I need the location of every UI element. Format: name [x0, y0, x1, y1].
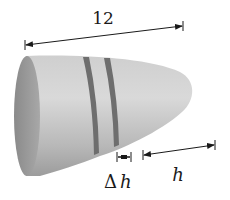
bullet-diagram: 12 Δh h: [0, 0, 230, 200]
label-delta-h: Δh: [104, 171, 132, 192]
dimension-total-length: 12: [25, 8, 183, 50]
delta-h-variable: h: [120, 171, 132, 192]
bullet-body: [14, 56, 192, 176]
dimension-delta-h: Δh: [104, 152, 132, 192]
base-face: [14, 56, 40, 176]
dimension-h: h: [143, 140, 215, 185]
label-h: h: [172, 164, 184, 185]
label-total-length: 12: [92, 8, 114, 28]
delta-symbol: Δ: [104, 171, 117, 192]
